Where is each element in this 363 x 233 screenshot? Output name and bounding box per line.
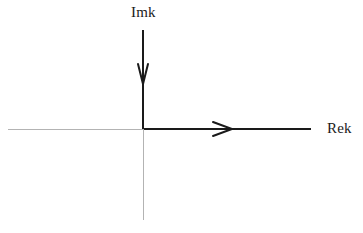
real-axis-label: Rek [327, 121, 352, 136]
figure-canvas: Imk Rek [0, 0, 363, 233]
imaginary-axis-label: Imk [131, 5, 156, 20]
axes-diagram [0, 0, 363, 233]
